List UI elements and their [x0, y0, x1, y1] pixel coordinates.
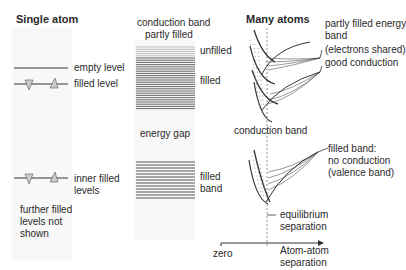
empty-level-label: empty level	[74, 62, 125, 74]
valence-label-1: filled band:	[328, 143, 376, 155]
single-atom-title: Single atom	[16, 13, 78, 25]
inner-filled-label-2: levels	[74, 185, 100, 197]
equilibrium-label-2: separation	[280, 221, 327, 233]
unfilled-label: unfilled	[200, 45, 232, 57]
filled-band-label-2: band	[200, 183, 222, 195]
conduction-band-label: conduction band	[234, 125, 307, 137]
partly-filled-label-1: partly filled energy	[325, 18, 406, 30]
further-levels-label-1: further filled	[20, 204, 72, 216]
equilibrium-label-1: equilibrium	[280, 209, 328, 221]
axis-zero-label: zero	[213, 248, 232, 260]
axis-title-2: separation	[280, 257, 327, 269]
inner-filled-label-1: inner filled	[74, 173, 120, 185]
good-conduction-label: good conduction	[325, 57, 398, 69]
many-atoms-title: Many atoms	[246, 13, 310, 25]
valence-label-3: (valence band)	[328, 167, 394, 179]
further-levels-label-2: levels not	[20, 216, 62, 228]
further-levels-label-3: shown	[20, 228, 49, 240]
electrons-shared-label: (electrons shared)	[325, 44, 406, 56]
valence-label-2: no conduction	[328, 155, 390, 167]
conduction-band-title-2: partly filled	[145, 29, 193, 41]
energy-gap-label: energy gap	[140, 128, 190, 140]
band-panel	[135, 40, 195, 240]
filled-band-label-1: filled	[200, 171, 221, 183]
conduction-band-title-1: conduction band	[137, 17, 210, 29]
filled-level-label: filled level	[74, 78, 118, 90]
axis-title-1: Atom-atom	[280, 245, 329, 257]
partly-filled-label-2: band	[325, 30, 347, 42]
filled-label: filled	[200, 75, 221, 87]
conduction-band-lines	[136, 47, 195, 109]
